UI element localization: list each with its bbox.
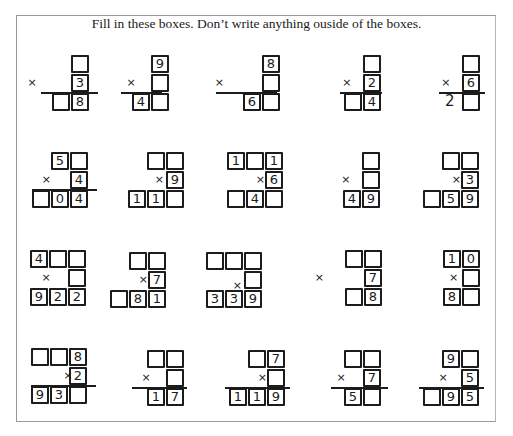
product-input[interactable] (112, 292, 126, 306)
product-box[interactable] (166, 190, 184, 208)
product-input[interactable] (54, 95, 68, 109)
product-input[interactable] (267, 192, 281, 206)
multiplicand-input[interactable] (365, 352, 379, 366)
multiplier-box[interactable] (166, 369, 184, 387)
product-box[interactable] (32, 190, 50, 208)
multiplier-box[interactable] (68, 269, 86, 287)
multiplicand-box[interactable] (345, 250, 363, 268)
multiplicand-box[interactable] (363, 350, 381, 368)
product-input[interactable] (365, 390, 379, 404)
multiplicand-box[interactable] (246, 152, 264, 170)
multiplicand-input[interactable] (70, 252, 84, 266)
multiplicand-input[interactable] (365, 57, 379, 71)
product-box[interactable] (423, 190, 441, 208)
multiplicand-input[interactable] (51, 252, 65, 266)
product-input[interactable] (346, 95, 360, 109)
multiplier-input[interactable] (153, 76, 167, 90)
multiplier-input[interactable] (464, 271, 478, 285)
multiplier-input[interactable] (168, 371, 182, 385)
product-box[interactable] (462, 93, 480, 111)
product-input[interactable] (153, 95, 167, 109)
multiplicand-input[interactable] (364, 154, 378, 168)
product-input[interactable] (464, 95, 478, 109)
multiplier-box[interactable] (462, 269, 480, 287)
product-input[interactable] (229, 192, 243, 206)
product-input[interactable] (347, 290, 361, 304)
multiplicand-box[interactable] (364, 250, 382, 268)
multiplicand-input[interactable] (131, 254, 145, 268)
multiplicand-input[interactable] (73, 57, 87, 71)
multiplicand-box[interactable] (50, 348, 68, 366)
multiplicand-input[interactable] (227, 254, 241, 268)
multiplicand-input[interactable] (444, 154, 458, 168)
multiplier-box[interactable] (262, 74, 280, 92)
multiplicand-input[interactable] (149, 154, 163, 168)
product-box[interactable] (52, 93, 70, 111)
multiplicand-input[interactable] (246, 254, 260, 268)
product-box[interactable] (462, 288, 480, 306)
multiplicand-box[interactable] (129, 252, 147, 270)
multiplicand-box[interactable] (363, 55, 381, 73)
multiplicand-box[interactable] (442, 152, 460, 170)
multiplicand-input[interactable] (168, 154, 182, 168)
multiplier-input[interactable] (264, 76, 278, 90)
multiplicand-input[interactable] (346, 352, 360, 366)
multiplicand-input[interactable] (208, 254, 222, 268)
multiplicand-box[interactable] (68, 250, 86, 268)
product-box[interactable] (227, 190, 245, 208)
multiplicand-box[interactable] (147, 350, 165, 368)
multiplicand-box[interactable] (70, 152, 88, 170)
product-input[interactable] (71, 388, 85, 402)
product-box[interactable] (344, 93, 362, 111)
multiplicand-box[interactable] (71, 55, 89, 73)
multiplicand-box[interactable] (31, 348, 49, 366)
multiplicand-input[interactable] (463, 352, 477, 366)
product-input[interactable] (425, 192, 439, 206)
multiplicand-input[interactable] (463, 154, 477, 168)
multiplicand-box[interactable] (462, 55, 480, 73)
multiplicand-box[interactable] (206, 252, 224, 270)
product-box[interactable] (345, 288, 363, 306)
multiplier-box[interactable] (151, 74, 169, 92)
multiplicand-input[interactable] (72, 154, 86, 168)
product-input[interactable] (464, 290, 478, 304)
multiplier-input[interactable] (70, 271, 84, 285)
multiplier-input[interactable] (364, 173, 378, 187)
multiplicand-box[interactable] (461, 350, 479, 368)
product-input[interactable] (34, 192, 48, 206)
multiplicand-box[interactable] (49, 250, 67, 268)
product-input[interactable] (425, 390, 439, 404)
multiplicand-input[interactable] (149, 352, 163, 366)
multiplicand-input[interactable] (52, 350, 66, 364)
multiplicand-input[interactable] (150, 254, 164, 268)
multiplicand-box[interactable] (147, 152, 165, 170)
product-box[interactable] (423, 388, 441, 406)
multiplicand-input[interactable] (168, 352, 182, 366)
product-box[interactable] (363, 388, 381, 406)
product-input[interactable] (264, 95, 278, 109)
multiplicand-input[interactable] (366, 252, 380, 266)
multiplicand-box[interactable] (362, 152, 380, 170)
product-box[interactable] (69, 386, 87, 404)
product-input[interactable] (168, 192, 182, 206)
multiplicand-input[interactable] (464, 57, 478, 71)
multiplicand-input[interactable] (33, 350, 47, 364)
multiplicand-input[interactable] (250, 352, 264, 366)
multiplicand-input[interactable] (248, 154, 262, 168)
multiplicand-box[interactable] (148, 252, 166, 270)
product-box[interactable] (265, 190, 283, 208)
multiplicand-box[interactable] (244, 252, 262, 270)
multiplicand-input[interactable] (347, 252, 361, 266)
product-box[interactable] (110, 290, 128, 308)
multiplier-box[interactable] (267, 369, 285, 387)
multiplicand-box[interactable] (461, 152, 479, 170)
multiplicand-box[interactable] (225, 252, 243, 270)
multiplicand-box[interactable] (166, 152, 184, 170)
multiplicand-box[interactable] (344, 350, 362, 368)
product-box[interactable] (151, 93, 169, 111)
multiplier-box[interactable] (362, 171, 380, 189)
multiplicand-box[interactable] (248, 350, 266, 368)
multiplier-box[interactable] (244, 271, 262, 289)
multiplier-input[interactable] (246, 273, 260, 287)
multiplicand-box[interactable] (166, 350, 184, 368)
